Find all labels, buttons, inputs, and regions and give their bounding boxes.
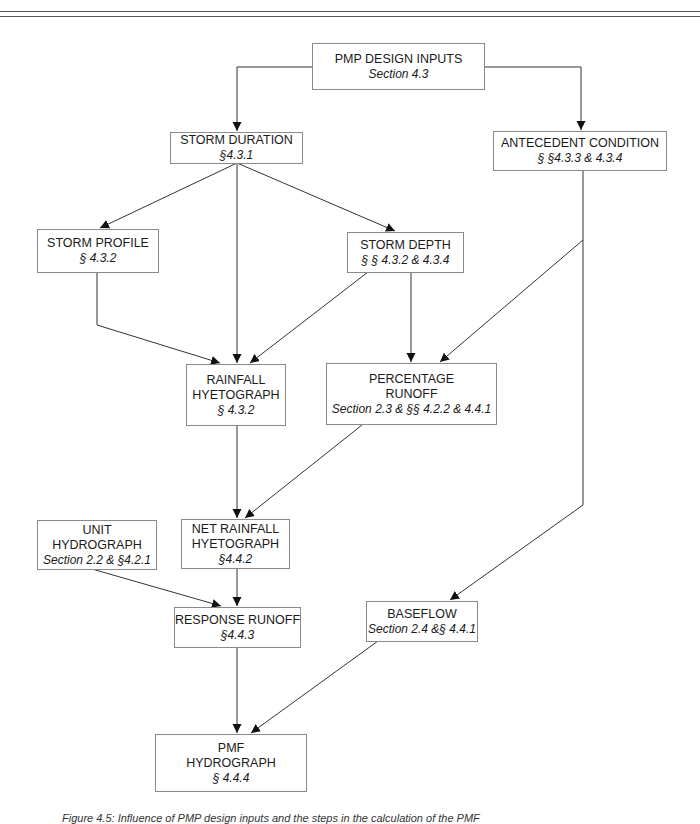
node-title: PMP DESIGN INPUTS	[335, 52, 463, 67]
node-reference: Section 4.3	[368, 67, 428, 82]
edge-depth-to-rainfall	[250, 272, 368, 363]
node-title: STORM PROFILE	[47, 236, 149, 251]
node-reference: §4.3.1	[220, 148, 253, 163]
node-storm-depth: STORM DEPTH § § 4.3.2 & 4.3.4	[347, 232, 464, 273]
edge-duration-to-profile	[100, 163, 237, 228]
edge-pmp-to-storm-duration	[237, 67, 312, 131]
edge-duration-to-depth	[237, 163, 395, 231]
node-reference: § § 4.3.2 & 4.3.4	[361, 253, 449, 268]
node-title: RESPONSE RUNOFF	[175, 613, 300, 628]
node-storm-profile: STORM PROFILE § 4.3.2	[37, 229, 159, 273]
node-title-line2: RUNOFF	[385, 387, 437, 402]
edge-profile-to-rainfall	[97, 272, 220, 363]
node-title: STORM DEPTH	[360, 238, 451, 253]
node-title-line1: RAINFALL	[206, 373, 265, 388]
node-reference: § 4.4.4	[213, 771, 250, 786]
node-pmp-design-inputs: PMP DESIGN INPUTS Section 4.3	[312, 43, 485, 90]
edge-baseflow-to-pmf	[251, 641, 378, 733]
node-title-line1: UNIT	[82, 523, 111, 538]
edge-pmp-to-antecedent	[485, 67, 581, 130]
node-reference: § 4.3.2	[80, 251, 117, 266]
node-rainfall-hyetograph: RAINFALL HYETOGRAPH § 4.3.2	[186, 364, 286, 426]
node-title-line2: HYDROGRAPH	[186, 756, 276, 771]
node-baseflow: BASEFLOW Section 2.4 &§ 4.4.1	[366, 601, 478, 642]
node-reference: §4.4.3	[221, 628, 254, 643]
node-title-line1: NET RAINFALL	[192, 522, 279, 537]
edge-unit-to-response	[92, 569, 221, 606]
node-title-line2: HYDROGRAPH	[52, 538, 142, 553]
node-reference: Section 2.3 & §§ 4.2.2 & 4.4.1	[332, 402, 491, 417]
node-reference: Section 2.2 & §4.2.1	[43, 553, 151, 568]
node-storm-duration: STORM DURATION §4.3.1	[170, 132, 303, 164]
figure-caption: Figure 4.5: Influence of PMP design inpu…	[62, 812, 480, 824]
node-percentage-runoff: PERCENTAGE RUNOFF Section 2.3 & §§ 4.2.2…	[326, 363, 497, 425]
node-title-line1: PMF	[218, 741, 244, 756]
node-reference: § §4.3.3 & 4.3.4	[538, 151, 623, 166]
node-net-rainfall-hyetograph: NET RAINFALL HYETOGRAPH §4.4.2	[181, 519, 290, 569]
node-reference: § 4.3.2	[218, 403, 255, 418]
node-title-line1: PERCENTAGE	[369, 372, 454, 387]
edge-runoff-to-net	[245, 425, 362, 518]
node-reference: §4.4.2	[219, 552, 252, 567]
node-reference: Section 2.4 &§ 4.4.1	[368, 622, 476, 637]
node-antecedent-condition: ANTECEDENT CONDITION § §4.3.3 & 4.3.4	[493, 131, 667, 171]
node-title: BASEFLOW	[387, 607, 456, 622]
node-title: STORM DURATION	[180, 133, 293, 148]
node-title: ANTECEDENT CONDITION	[501, 136, 659, 151]
node-title-line2: HYETOGRAPH	[192, 388, 279, 403]
node-response-runoff: RESPONSE RUNOFF §4.4.3	[174, 607, 301, 648]
node-pmf-hydrograph: PMF HYDROGRAPH § 4.4.4	[155, 734, 307, 792]
node-unit-hydrograph: UNIT HYDROGRAPH Section 2.2 & §4.2.1	[37, 520, 157, 570]
node-title-line2: HYETOGRAPH	[192, 537, 279, 552]
